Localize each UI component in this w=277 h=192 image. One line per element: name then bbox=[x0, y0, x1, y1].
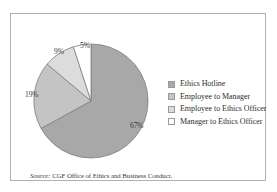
legend-item-manager-to-ethics-officer: Manager to Ethics Officer bbox=[168, 116, 274, 129]
legend-swatch-employee-to-ethics-officer bbox=[168, 106, 175, 113]
source-note-prefix: Source: bbox=[30, 172, 51, 179]
pie-data-label-employee-to-ethics-officer: 9% bbox=[54, 47, 64, 56]
source-note-body: CGF Office of Ethics and Business Conduc… bbox=[51, 172, 173, 179]
pie-data-label-manager-to-ethics-officer: 5% bbox=[80, 41, 90, 50]
legend-swatch-employee-to-manager bbox=[168, 93, 175, 100]
legend-item-employee-to-manager: Employee to Manager bbox=[168, 91, 274, 104]
figure-frame-border: 67% 19% 9% 5% Ethics Hotline Employee to… bbox=[10, 13, 266, 181]
legend-item-ethics-hotline: Ethics Hotline bbox=[168, 78, 274, 91]
legend-label-ethics-hotline: Ethics Hotline bbox=[180, 78, 225, 91]
figure-root: 67% 19% 9% 5% Ethics Hotline Employee to… bbox=[0, 0, 277, 192]
legend-label-manager-to-ethics-officer: Manager to Ethics Officer bbox=[180, 116, 262, 129]
pie-chart bbox=[33, 42, 153, 160]
legend-label-employee-to-manager: Employee to Manager bbox=[180, 91, 250, 104]
legend-item-employee-to-ethics-officer: Employee to Ethics Officer bbox=[168, 103, 274, 116]
source-note: Source: CGF Office of Ethics and Busines… bbox=[30, 172, 172, 179]
legend-label-employee-to-ethics-officer: Employee to Ethics Officer bbox=[180, 103, 266, 116]
legend-swatch-ethics-hotline bbox=[168, 81, 175, 88]
pie-data-label-ethics-hotline: 67% bbox=[130, 121, 143, 130]
chart-legend: Ethics Hotline Employee to Manager Emplo… bbox=[168, 78, 274, 128]
pie-chart-svg bbox=[33, 42, 153, 160]
pie-data-label-employee-to-manager: 19% bbox=[25, 90, 38, 99]
legend-swatch-manager-to-ethics-officer bbox=[168, 118, 175, 125]
